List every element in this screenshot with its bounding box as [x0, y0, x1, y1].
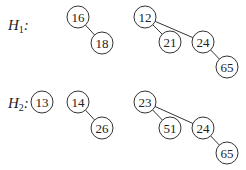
- heap-node: 24: [192, 117, 214, 139]
- tree-edge: [85, 25, 94, 35]
- node-value: 24: [197, 35, 211, 50]
- heap-node: 26: [91, 117, 113, 139]
- heap-node: 65: [216, 56, 238, 78]
- heap-node: 65: [216, 142, 238, 164]
- node-value: 14: [72, 95, 86, 110]
- heap-node: 24: [192, 31, 214, 53]
- tree-edge: [153, 25, 162, 34]
- tree-edge: [211, 50, 220, 59]
- tree-edge: [85, 110, 94, 120]
- node-value: 21: [164, 35, 177, 50]
- heap-node: 21: [159, 31, 181, 53]
- node-value: 13: [36, 95, 49, 110]
- node-value: 12: [139, 10, 152, 25]
- heap-2: H2:13142623512465: [7, 91, 238, 164]
- node-value: 24: [197, 121, 211, 136]
- heap-node: 18: [91, 32, 113, 54]
- tree-edge: [153, 110, 163, 120]
- heap-node: 13: [31, 91, 53, 113]
- node-value: 65: [221, 60, 234, 75]
- heap-node: 14: [67, 91, 89, 113]
- tree-edge: [211, 136, 220, 145]
- heap-label: H2:: [7, 95, 29, 113]
- node-value: 26: [96, 121, 110, 136]
- node-value: 16: [72, 10, 86, 25]
- heap-node: 23: [134, 91, 156, 113]
- heap-1: H1:161812212465: [7, 6, 238, 78]
- binomial-heap-diagram: H1:161812212465H2:13142623512465: [0, 0, 246, 170]
- node-value: 51: [164, 121, 177, 136]
- heap-node: 12: [134, 6, 156, 28]
- node-value: 18: [96, 36, 109, 51]
- heap-node: 16: [67, 6, 89, 28]
- heap-node: 51: [159, 117, 181, 139]
- node-value: 23: [139, 95, 152, 110]
- heap-label: H1:: [7, 17, 29, 35]
- node-value: 65: [221, 146, 234, 161]
